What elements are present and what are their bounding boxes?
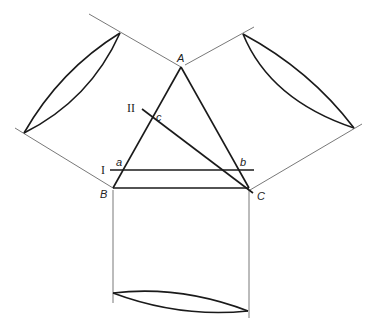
left-projection <box>15 14 181 188</box>
label-line-II: II <box>127 101 135 115</box>
label-A: A <box>176 52 184 64</box>
label-a: a <box>116 156 122 168</box>
label-B: B <box>100 188 107 200</box>
right-lens-inner <box>243 34 354 128</box>
label-c: c <box>156 111 162 123</box>
label-C: C <box>257 190 265 202</box>
label-b: b <box>240 156 246 168</box>
right-lens-outer <box>243 34 354 128</box>
bottom-projection <box>113 190 249 318</box>
right-top-projector <box>185 27 254 65</box>
right-projection <box>185 27 362 190</box>
left-bottom-projector <box>15 128 113 188</box>
triangle-projection-diagram: A B C a b c I II <box>0 0 377 333</box>
left-top-projector <box>89 14 181 67</box>
left-lens-outer <box>24 33 120 133</box>
bottom-lens-lower <box>113 293 248 313</box>
label-line-I: I <box>101 163 105 177</box>
left-lens-inner <box>24 33 120 133</box>
right-bottom-projector <box>250 124 362 190</box>
bottom-lens-upper <box>113 291 248 311</box>
